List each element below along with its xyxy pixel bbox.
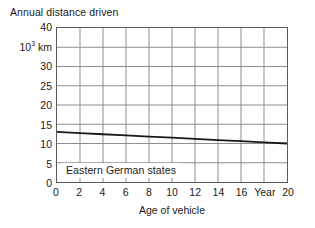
x-tick-label-4: 4 (99, 186, 105, 198)
y-tick-label-40: 40 (6, 22, 52, 33)
data-series-layer (57, 28, 287, 182)
x-tick-label-10: 10 (166, 186, 178, 198)
series-annotation-label: Eastern German states (61, 163, 181, 178)
y-unit-mantissa: 10 (19, 40, 31, 52)
x-tick-label-8: 8 (146, 186, 152, 198)
x-tick-label-year-unit: Year (254, 186, 275, 198)
y-tick-label-5: 5 (6, 158, 52, 169)
y-tick-label-25: 25 (6, 80, 52, 91)
x-tick-label-12: 12 (189, 186, 201, 198)
x-tick-label-14: 14 (213, 186, 225, 198)
y-tick-label-10: 10 (6, 139, 52, 150)
x-tick-label-0: 0 (53, 186, 59, 198)
x-tick-label-2: 2 (76, 186, 82, 198)
x-tick-label-20: 20 (282, 186, 294, 198)
chart-figure: Annual distance driven 40 103 km 30 25 2… (0, 0, 315, 228)
y-axis-title: Annual distance driven (10, 6, 118, 18)
x-axis-tick-labels: 0 2 4 6 8 10 12 14 16 Year 20 (56, 186, 288, 202)
y-unit-km: km (38, 40, 52, 52)
y-tick-label-15: 15 (6, 119, 52, 130)
plot-area: Eastern German states (56, 27, 288, 183)
y-tick-label-0: 0 (6, 178, 52, 189)
y-tick-label-35-unit: 103 km (6, 41, 52, 52)
x-tick-label-16: 16 (236, 186, 248, 198)
series-line-eastern-german-states (57, 132, 287, 144)
x-axis-title: Age of vehicle (56, 204, 288, 216)
y-tick-label-30: 30 (6, 61, 52, 72)
y-unit-exponent: 3 (31, 40, 35, 47)
x-tick-label-6: 6 (123, 186, 129, 198)
y-tick-label-20: 20 (6, 100, 52, 111)
y-axis-tick-labels: 40 103 km 30 25 20 15 10 5 0 (0, 27, 52, 183)
